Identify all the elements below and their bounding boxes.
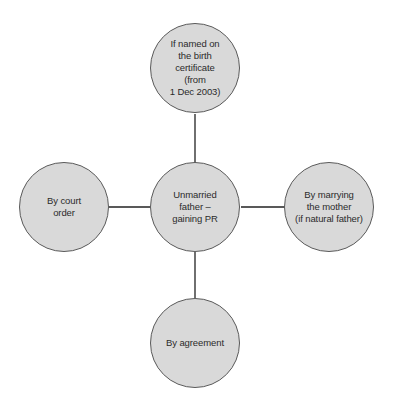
node-agreement-label: By agreement <box>166 337 224 349</box>
node-court-order-label: By court order <box>47 195 81 219</box>
node-birth-certificate-label: If named on the birth certificate (from … <box>170 38 221 98</box>
node-agreement: By agreement <box>150 298 240 388</box>
node-center-label: Unmarried father – gaining PR <box>172 189 217 225</box>
node-birth-certificate: If named on the birth certificate (from … <box>150 23 240 113</box>
node-center-unmarried-father: Unmarried father – gaining PR <box>150 162 240 252</box>
node-court-order: By court order <box>19 162 109 252</box>
node-marrying-mother: By marrying the mother (if natural fathe… <box>284 162 374 252</box>
node-marrying-mother-label: By marrying the mother (if natural fathe… <box>295 189 363 225</box>
